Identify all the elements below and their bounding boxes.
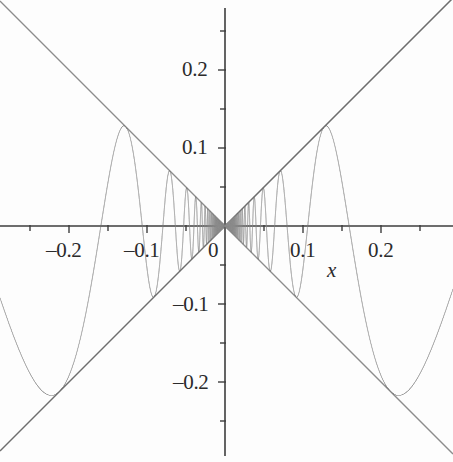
x-axis-label: x: [327, 258, 336, 283]
x-tick-label: 0: [208, 238, 218, 263]
x-tick-label: 0.2: [368, 238, 393, 263]
plot-canvas: [0, 0, 453, 462]
y-tick-label: –0.1: [173, 292, 209, 317]
y-tick-label: –0.2: [173, 370, 209, 395]
plot-figure: –0.2–0.100.10.20.20.1–0.1–0.2 x: [0, 0, 453, 462]
x-tick-label: –0.2: [46, 238, 82, 263]
x-tick-label: 0.1: [290, 238, 315, 263]
x-tick-label: –0.1: [124, 238, 160, 263]
y-tick-label: 0.2: [182, 57, 207, 82]
y-tick-label: 0.1: [182, 135, 207, 160]
